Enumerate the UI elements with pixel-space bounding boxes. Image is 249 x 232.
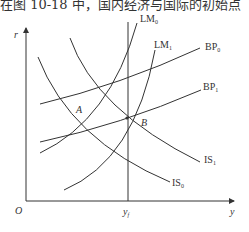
bp0-curve xyxy=(40,48,200,104)
point-b-label: B xyxy=(141,117,147,128)
is0-label: IS0 xyxy=(172,177,184,189)
bp1-label: BP1 xyxy=(203,81,218,93)
x-axis-label: y xyxy=(229,206,235,217)
origin-label: O xyxy=(15,205,22,216)
bp0-label: BP0 xyxy=(205,41,220,53)
lm0-curve xyxy=(40,23,137,153)
lm0-label: LM0 xyxy=(140,13,158,25)
point-b-dot xyxy=(125,116,128,119)
y-axis-label: r xyxy=(14,29,18,40)
is1-label: IS1 xyxy=(204,154,216,166)
full-employment-label: yf xyxy=(122,206,130,218)
lm1-label: LM1 xyxy=(154,39,172,51)
point-a-label: A xyxy=(75,104,83,115)
is-lm-bp-diagram: r O y yf LM0 LM1 BP0 BP1 IS1 IS0 A B xyxy=(0,0,249,232)
